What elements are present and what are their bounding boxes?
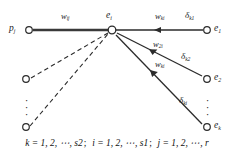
arrowhead-output-1	[154, 27, 161, 33]
caption-k-range: k = 1, 2, ⋯, s2	[25, 138, 83, 148]
edge-input-dashed-1	[31, 33, 108, 78]
figure-caption: k = 1, 2, ⋯, s2; i = 1, 2, ⋯, s1; j = 1,…	[0, 137, 234, 148]
node-output-e2[interactable]	[204, 76, 211, 83]
caption-j-range: j = 1, 2, ⋯, r	[158, 138, 209, 148]
edge-label-w-output-2: w2i	[153, 40, 163, 50]
node-label-e: ei	[106, 11, 112, 22]
caption-i-range: i = 1, 2, ⋯, s1	[92, 138, 148, 148]
edge-label-w-output-3: wki	[155, 60, 164, 70]
node-input-unlabeled-1[interactable]	[23, 76, 30, 83]
node-label-e1: e1	[214, 24, 221, 35]
node-hidden-e[interactable]	[108, 26, 116, 34]
caption-separator-2: ;	[148, 138, 153, 148]
node-output-ek[interactable]	[204, 124, 211, 131]
node-label-e2: e2	[214, 73, 221, 84]
vertical-dots-right-icon: · · ·	[203, 97, 212, 117]
node-input-p[interactable]	[26, 27, 33, 34]
edge-label-w-output-1: wki	[155, 12, 164, 22]
node-label-p: pj	[9, 24, 15, 35]
vertical-dots-left-icon: · · ·	[22, 97, 31, 117]
figure-container: pj ei e1 e2 ek wij wki w2i wki δk1 δk2 δ…	[0, 0, 234, 161]
node-output-e1[interactable]	[204, 27, 211, 34]
edge-label-delta-1: δk1	[185, 11, 194, 21]
node-label-ek: ek	[214, 121, 221, 132]
edge-input-dashed-2	[30, 34, 108, 126]
edge-label-delta-2: δk2	[181, 52, 190, 62]
edge-label-w-input: wij	[61, 12, 69, 22]
caption-separator-1: ;	[83, 138, 88, 148]
edge-label-delta-3: δki	[179, 96, 187, 106]
node-input-unlabeled-2[interactable]	[23, 124, 30, 131]
arrowhead-output-3	[150, 70, 158, 77]
